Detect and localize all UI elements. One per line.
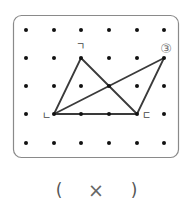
grid-dot [135,56,139,60]
vertex-label-digeut: ㄷ [142,110,151,121]
grid-dot [135,112,139,116]
answer-mark-x: × [88,176,104,204]
grid-dot [79,28,83,32]
grid-dot [162,56,166,60]
grid-dot [107,28,111,32]
vertex-label-giyeok: ㄱ [76,41,85,52]
grid-dot [135,141,139,145]
grid-dot [162,84,166,88]
grid-dot [79,141,83,145]
problem-number: ③ [160,41,172,56]
grid-dot [107,112,111,116]
grid-dot [107,141,111,145]
grid-dot [52,112,56,116]
geoboard-frame [14,16,179,158]
grid-dot [135,28,139,32]
grid-dot [79,84,83,88]
geoboard-figure: ㄱ ㄴ ㄷ ③ [0,0,187,170]
grid-dot [162,141,166,145]
grid-dot [79,56,83,60]
grid-dot [52,84,56,88]
grid-dot [107,84,111,88]
grid-dot [107,56,111,60]
grid-dot [79,112,83,116]
grid-dot [162,28,166,32]
grid-dot [135,84,139,88]
grid-dot [52,141,56,145]
grid-dot [24,84,28,88]
vertex-label-nieun: ㄴ [42,110,51,121]
grid-dot [24,141,28,145]
close-paren: ) [131,176,138,204]
grid-dot [52,28,56,32]
grid-dot [52,56,56,60]
answer-row: ( × ) [0,176,187,204]
grid-dot [24,56,28,60]
grid-dot [24,28,28,32]
grid-dot [24,112,28,116]
open-paren: ( [56,176,63,204]
grid-dot [162,112,166,116]
